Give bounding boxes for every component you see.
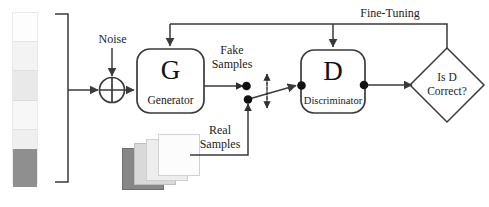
discriminator-caption: Discriminator [297,96,369,107]
fake-samples-label-line1: Fake [198,44,266,57]
real-samples-dot [244,95,253,104]
fine-tuning-label: Fine-Tuning [350,7,430,20]
samples-to-discriminator-line [249,86,296,100]
gan-architecture-diagram: G Generator D Discriminator Is D Correct… [0,0,489,207]
decision-label-line1: Is D [417,71,477,83]
generator-symbol: G [137,57,204,84]
real-samples-label-line2: Samples [188,138,252,151]
generator-caption: Generator [134,95,207,107]
fake-samples-label-line2: Samples [198,58,266,71]
noise-label: Noise [85,33,140,46]
diagram-connectors [0,0,489,207]
decision-label-line2: Correct? [417,85,477,97]
fake-samples-dot [242,82,251,91]
discriminator-symbol: D [301,58,365,85]
real-samples-label-line1: Real [192,124,248,137]
latent-bracket [55,14,68,182]
